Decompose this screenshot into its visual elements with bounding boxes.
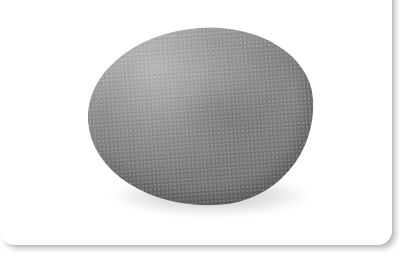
photo-stage: [0, 0, 413, 273]
